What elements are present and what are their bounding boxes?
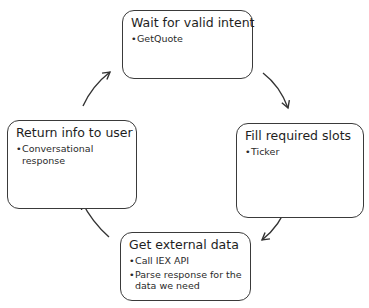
bullet-item: Parse response for the data we need xyxy=(129,269,242,292)
node-bullets: Ticker xyxy=(245,146,355,158)
node-bullets: Conversational response xyxy=(16,143,128,166)
node-title: Wait for valid intent xyxy=(131,14,244,31)
arrow-wait-to-fill xyxy=(263,73,288,108)
bullet-item: GetQuote xyxy=(131,33,244,45)
bullet-item: Conversational response xyxy=(16,143,128,166)
node-return-info-to-user: Return info to user Conversational respo… xyxy=(7,120,137,209)
node-get-external-data: Get external data Call IEX API Parse res… xyxy=(120,232,251,301)
bullet-item: Ticker xyxy=(245,146,355,158)
bullet-item: Call IEX API xyxy=(129,255,242,267)
node-bullets: Call IEX API Parse response for the data… xyxy=(129,255,242,292)
node-fill-required-slots: Fill required slots Ticker xyxy=(236,123,364,218)
node-title: Return info to user xyxy=(16,124,128,141)
node-wait-for-valid-intent: Wait for valid intent GetQuote xyxy=(122,10,253,79)
node-title: Get external data xyxy=(129,236,242,253)
arrow-return-to-wait xyxy=(83,72,110,106)
node-bullets: GetQuote xyxy=(131,33,244,45)
node-title: Fill required slots xyxy=(245,127,355,144)
